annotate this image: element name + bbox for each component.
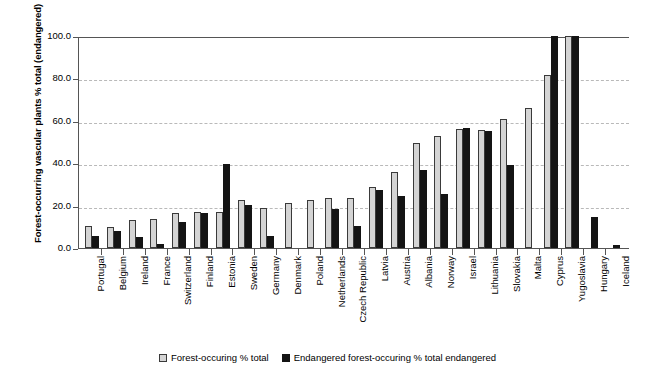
x-axis-label: Norway xyxy=(430,256,452,344)
x-axis-label: Netherlands xyxy=(321,256,343,344)
x-axis-label: Austria xyxy=(386,256,408,344)
bar-group xyxy=(496,38,518,248)
legend-item: Forest-occuring % total xyxy=(159,352,269,363)
legend-item-label: Forest-occuring % total xyxy=(171,352,269,363)
x-axis-tick-mark xyxy=(343,249,365,255)
x-axis-tick-mark xyxy=(255,249,277,255)
x-axis-label: Switzerland xyxy=(168,256,190,344)
x-axis-tick-marks xyxy=(78,249,629,255)
bar-group xyxy=(321,38,343,248)
x-axis-labels: PortugalBelgiumIrelandFranceSwitzerlandF… xyxy=(78,256,629,344)
bar-forest-occuring xyxy=(307,200,314,248)
bar-forest-occuring xyxy=(150,219,157,248)
x-axis-label: Albania xyxy=(408,256,430,344)
x-axis-tick-mark xyxy=(453,249,475,255)
x-axis-tick-mark xyxy=(409,249,431,255)
x-axis-tick-mark xyxy=(277,249,299,255)
x-axis-label: France xyxy=(146,256,168,344)
bar-forest-occuring xyxy=(172,213,179,248)
bar-group xyxy=(562,38,584,248)
x-axis-label: Iceland xyxy=(605,256,627,344)
x-axis-label: Israel xyxy=(452,256,474,344)
x-axis-tick-mark xyxy=(518,249,540,255)
x-axis-label: Yugoslavia xyxy=(561,256,583,344)
x-axis-tick-mark xyxy=(212,249,234,255)
bar-group xyxy=(431,38,453,248)
bar-endangered-forest-occuring xyxy=(376,190,383,248)
bar-chart: Forest-occurring vascular plants % total… xyxy=(0,0,655,373)
legend-item-label: Endangered forest-occuring % total endan… xyxy=(294,352,496,363)
x-axis-label: Lithuania xyxy=(474,256,496,344)
bar-forest-occuring xyxy=(391,172,398,248)
bar-group xyxy=(103,38,125,248)
x-axis-label: Finland xyxy=(189,256,211,344)
legend-item: Endangered forest-occuring % total endan… xyxy=(282,352,496,363)
bar-endangered-forest-occuring xyxy=(267,236,274,248)
x-axis-label-text: Iceland xyxy=(620,256,631,287)
bar-endangered-forest-occuring xyxy=(245,205,252,248)
y-axis-tick-label: 60.0 xyxy=(0,116,78,126)
bar-forest-occuring xyxy=(565,36,572,248)
x-axis-label: Slovakia xyxy=(496,256,518,344)
bar-forest-occuring xyxy=(544,75,551,248)
bar-endangered-forest-occuring xyxy=(441,194,448,248)
bar-endangered-forest-occuring xyxy=(507,165,514,248)
bar-group xyxy=(474,38,496,248)
chart-legend: Forest-occuring % totalEndangered forest… xyxy=(0,352,655,363)
bar-forest-occuring xyxy=(129,220,136,248)
bar-forest-occuring xyxy=(478,130,485,248)
bar-forest-occuring xyxy=(347,198,354,248)
y-axis-tick-label: 20.0 xyxy=(0,201,78,211)
x-axis-label: Denmark xyxy=(277,256,299,344)
bar-forest-occuring xyxy=(260,208,267,248)
x-axis-tick-mark xyxy=(497,249,519,255)
bar-group xyxy=(387,38,409,248)
x-axis-tick-mark xyxy=(299,249,321,255)
y-axis-tick-label: 100.0 xyxy=(0,31,78,41)
bar-group xyxy=(343,38,365,248)
bar-endangered-forest-occuring xyxy=(591,217,598,248)
x-axis-label: Portugal xyxy=(80,256,102,344)
bar-group xyxy=(234,38,256,248)
bar-forest-occuring xyxy=(325,198,332,248)
bar-forest-occuring xyxy=(413,143,420,248)
x-axis-tick-mark xyxy=(540,249,562,255)
x-axis-label: Malta xyxy=(518,256,540,344)
x-axis-label: Germany xyxy=(255,256,277,344)
bar-group xyxy=(278,38,300,248)
bar-forest-occuring xyxy=(238,200,245,248)
bar-group xyxy=(190,38,212,248)
bar-group xyxy=(365,38,387,248)
bar-endangered-forest-occuring xyxy=(92,236,99,248)
bar-forest-occuring xyxy=(525,108,532,248)
light-square-swatch xyxy=(159,354,167,362)
bar-group xyxy=(605,38,627,248)
bar-series-container xyxy=(79,38,629,248)
bar-endangered-forest-occuring xyxy=(420,170,427,248)
bar-forest-occuring xyxy=(216,212,223,248)
bar-endangered-forest-occuring xyxy=(572,36,579,248)
x-axis-tick-mark xyxy=(584,249,606,255)
bar-forest-occuring xyxy=(85,226,92,248)
bar-forest-occuring xyxy=(434,136,441,248)
y-axis-tick-label: 40.0 xyxy=(0,158,78,168)
bar-endangered-forest-occuring xyxy=(463,128,470,248)
x-axis-label: Czech Republic xyxy=(343,256,365,344)
bar-endangered-forest-occuring xyxy=(136,237,143,248)
bar-group xyxy=(299,38,321,248)
x-axis-tick-mark xyxy=(168,249,190,255)
x-axis-tick-mark xyxy=(431,249,453,255)
bar-group xyxy=(125,38,147,248)
x-axis-tick-mark xyxy=(562,249,584,255)
x-axis-tick-mark xyxy=(190,249,212,255)
x-axis-label: Cyprus xyxy=(539,256,561,344)
x-axis-label: Sweden xyxy=(233,256,255,344)
x-axis-tick-mark xyxy=(80,249,102,255)
bar-endangered-forest-occuring xyxy=(223,164,230,248)
bar-group xyxy=(518,38,540,248)
bar-endangered-forest-occuring xyxy=(179,222,186,249)
bar-endangered-forest-occuring xyxy=(114,231,121,248)
bar-group xyxy=(452,38,474,248)
bar-forest-occuring xyxy=(500,119,507,248)
x-axis-label: Ireland xyxy=(124,256,146,344)
